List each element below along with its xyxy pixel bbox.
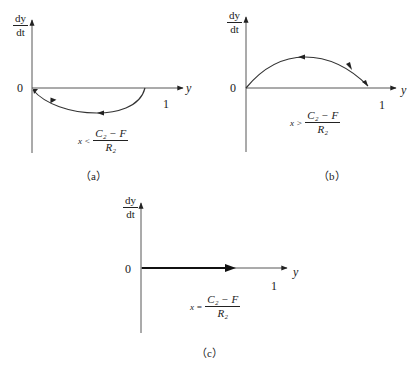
arrow-icon xyxy=(298,55,305,60)
panel-b-caption: （b） xyxy=(318,167,346,183)
panel-a-caption: （a） xyxy=(80,167,107,183)
panel-c-trajectory xyxy=(142,264,236,272)
arrow-icon xyxy=(97,111,104,116)
panel-b-condition: x > C₂ − F R₂ xyxy=(290,110,340,135)
panel-a-condition: x < C₂ − F R₂ xyxy=(78,128,128,153)
panel-b-y-axis-label: dy dt xyxy=(227,10,242,35)
panel-b-trajectory xyxy=(246,55,368,89)
condition-relation: x < xyxy=(78,136,90,146)
condition-relation: x = xyxy=(190,302,202,312)
condition-numerator: C₂ − F xyxy=(205,294,240,307)
arrow-icon xyxy=(225,264,236,272)
panel-c-y-axis-label: dy dt xyxy=(123,195,138,220)
dy-label: dy xyxy=(123,195,138,208)
panel-a-x-axis-label: y xyxy=(186,82,191,94)
panel-c-caption: （c） xyxy=(196,344,223,360)
panel-a-trajectory xyxy=(33,88,145,116)
condition-relation: x > xyxy=(290,118,302,128)
condition-denominator: R₂ xyxy=(217,307,228,319)
panel-c-tick-1: 1 xyxy=(271,280,277,292)
panel-a-tick-1: 1 xyxy=(163,98,169,110)
dy-label: dy xyxy=(227,10,242,23)
panel-c-condition: x = C₂ − F R₂ xyxy=(190,294,240,319)
condition-numerator: C₂ − F xyxy=(305,110,340,123)
panel-a-y-axis-label: dy dt xyxy=(13,13,28,38)
dy-label: dy xyxy=(13,13,28,26)
dt-label: dt xyxy=(126,208,135,220)
panel-a-origin-label: 0 xyxy=(17,82,23,94)
panel-c-origin-label: 0 xyxy=(125,263,131,275)
condition-denominator: R₂ xyxy=(317,123,328,135)
panel-b-x-axis-label: y xyxy=(401,84,406,96)
condition-denominator: R₂ xyxy=(105,141,116,153)
panel-b-origin-label: 0 xyxy=(230,82,236,94)
panel-c-x-axis-label: y xyxy=(293,266,298,278)
panel-b-tick-1: 1 xyxy=(379,99,385,111)
condition-numerator: C₂ − F xyxy=(93,128,128,141)
dt-label: dt xyxy=(16,26,25,38)
dt-label: dt xyxy=(230,23,239,35)
